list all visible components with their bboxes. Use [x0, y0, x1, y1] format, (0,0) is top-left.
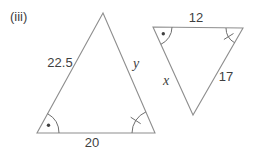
left-triangle-shape [37, 13, 155, 133]
left-triangle-bottom-left-angle-dot [47, 124, 50, 127]
figure-item-label: (iii) [10, 9, 27, 24]
left-triangle-side-label-left: 22.5 [47, 55, 72, 70]
left-triangle-side-label-bottom: 20 [85, 135, 99, 150]
geometry-figure: (iii) 22.5 y 20 12 x 17 [0, 0, 255, 157]
left-triangle-side-label-right: y [131, 56, 140, 71]
right-triangle-top-left-angle-arc [161, 27, 172, 44]
right-triangle-side-label-right: 17 [219, 69, 233, 84]
left-triangle-bottom-left-angle-arc [48, 114, 59, 133]
right-triangle-side-label-top: 12 [189, 10, 203, 25]
diagram-canvas: (iii) 22.5 y 20 12 x 17 [0, 0, 255, 157]
right-triangle-side-label-left: x [162, 73, 170, 88]
left-triangle-bottom-right-angle-tick [131, 117, 141, 124]
right-triangle-top-left-angle-dot [162, 32, 165, 35]
right-triangle-top-right-angle-tick [224, 34, 234, 40]
